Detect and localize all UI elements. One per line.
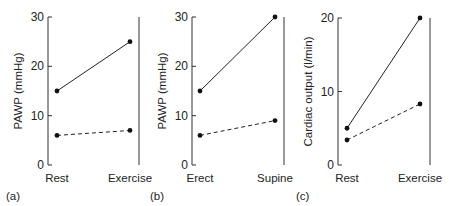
x-category-label: Exercise (398, 172, 442, 184)
series-line-dashed (347, 104, 420, 140)
x-category-label: Supine (257, 172, 293, 184)
y-tick-label: 30 (31, 10, 45, 24)
data-point (418, 102, 423, 107)
chart-panel-b: 0102030ErectSupinePAWP (mmHg)(b) (150, 10, 293, 202)
y-axis-label: Cardiac output (l/min) (302, 36, 314, 146)
x-category-label: Rest (45, 172, 69, 184)
series-line-dashed (57, 130, 130, 135)
series-line-dashed (200, 121, 275, 136)
y-tick-label: 20 (175, 59, 189, 73)
data-point (345, 126, 350, 131)
data-point (418, 16, 423, 21)
data-point (55, 89, 60, 94)
x-category-label: Exercise (108, 172, 152, 184)
y-tick-label: 30 (175, 10, 189, 24)
x-category-label: Rest (335, 172, 359, 184)
data-point (273, 15, 278, 20)
y-tick-label: 20 (321, 11, 335, 25)
series-line-solid (347, 18, 420, 128)
y-tick-label: 0 (37, 158, 44, 172)
y-axis-label: PAWP (mmHg) (156, 52, 168, 129)
data-point (198, 133, 203, 138)
y-tick-label: 0 (327, 158, 334, 172)
panel-label: (c) (296, 190, 310, 202)
y-tick-label: 20 (31, 59, 45, 73)
data-point (273, 118, 278, 123)
chart-figure: 0102030RestExercisePAWP (mmHg)(a)0102030… (0, 0, 453, 206)
series-line-solid (57, 42, 130, 91)
data-point (198, 89, 203, 94)
y-tick-label: 0 (181, 158, 188, 172)
data-point (128, 39, 133, 44)
data-point (55, 133, 60, 138)
panel-label: (a) (6, 190, 20, 202)
data-point (128, 128, 133, 133)
y-tick-label: 10 (175, 109, 189, 123)
x-category-label: Erect (187, 172, 215, 184)
y-tick-label: 10 (31, 109, 45, 123)
series-line-solid (200, 17, 275, 91)
data-point (345, 138, 350, 143)
y-tick-label: 10 (321, 85, 335, 99)
y-axis-label: PAWP (mmHg) (12, 52, 24, 129)
chart-panel-c: 01020RestExerciseCardiac output (l/min)(… (296, 11, 442, 202)
chart-panel-a: 0102030RestExercisePAWP (mmHg)(a) (6, 10, 152, 202)
panel-label: (b) (150, 190, 164, 202)
